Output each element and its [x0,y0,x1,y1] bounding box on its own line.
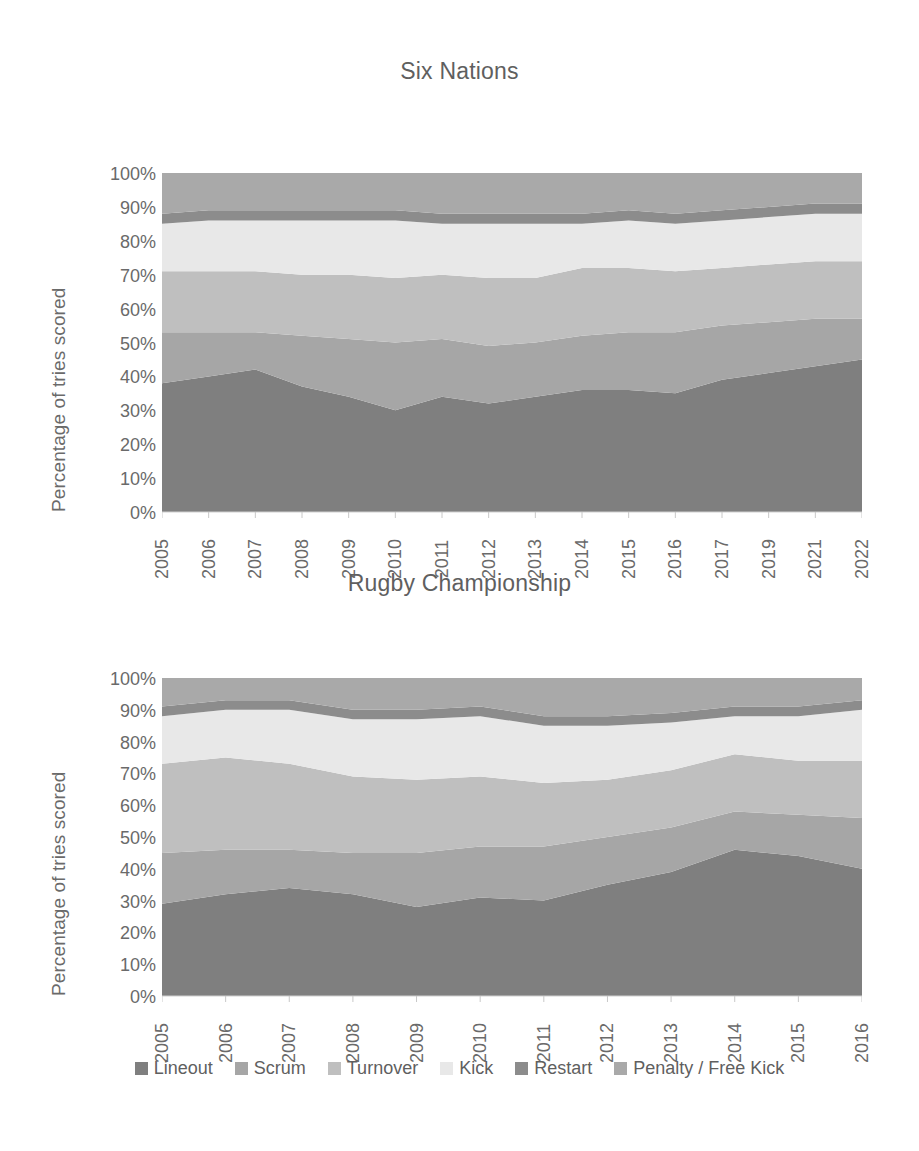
legend-item[interactable]: Turnover [328,1058,418,1079]
chart-six-nations: Six Nations Percentage of tries scored10… [0,40,919,560]
legend-swatch-icon [135,1062,148,1075]
legend-item-label: Restart [534,1058,592,1079]
y-axis-tick-label: 60% [120,301,156,319]
y-axis-tick-label: 30% [120,402,156,420]
legend-item-label: Scrum [254,1058,306,1079]
legend-swatch-icon [328,1062,341,1075]
y-axis-tick-label: 50% [120,335,156,353]
y-axis-tick-label: 30% [120,893,156,911]
y-axis-tick-label: 10% [120,470,156,488]
stacked-area-plot [162,678,862,1004]
y-axis-tick-label: 100% [110,165,156,183]
figure-root: Six Nations Percentage of tries scored10… [0,0,919,1151]
chart-legend: LineoutScrumTurnoverKickRestartPenalty /… [0,1058,919,1079]
legend-item-label: Lineout [154,1058,213,1079]
legend-item-label: Turnover [347,1058,418,1079]
y-axis-tick-label: 70% [120,267,156,285]
chart-two-plot-area: Percentage of tries scored100%90%80%70%6… [0,598,919,1076]
legend-swatch-icon [440,1062,453,1075]
legend-item[interactable]: Restart [515,1058,592,1079]
legend-swatch-icon [515,1062,528,1075]
legend-item-label: Kick [459,1058,493,1079]
y-axis-tick-label: 80% [120,734,156,752]
y-axis-tick-label: 90% [120,702,156,720]
legend-swatch-icon [235,1062,248,1075]
legend-item[interactable]: Penalty / Free Kick [614,1058,784,1079]
y-axis-ticks: 100%90%80%70%60%50%40%30%20%10%0% [94,598,156,1016]
y-axis-tick-label: 20% [120,436,156,454]
chart-two-title: Rugby Championship [0,568,919,598]
y-axis-title: Percentage of tries scored [48,288,70,512]
legend-item[interactable]: Kick [440,1058,493,1079]
y-axis-tick-label: 60% [120,797,156,815]
chart-rugby-championship: Rugby Championship Percentage of tries s… [0,560,919,1030]
y-axis-tick-label: 20% [120,924,156,942]
y-axis-tick-label: 90% [120,199,156,217]
chart-one-plot-area: Percentage of tries scored100%90%80%70%6… [0,86,919,592]
area-series-penalty-free-kick [162,173,862,214]
stacked-area-plot [162,173,862,520]
legend-item-label: Penalty / Free Kick [633,1058,784,1079]
y-axis-tick-label: 0% [130,504,156,522]
y-axis-tick-label: 100% [110,670,156,688]
legend-swatch-icon [614,1062,627,1075]
y-axis-title: Percentage of tries scored [48,772,70,996]
y-axis-tick-label: 50% [120,829,156,847]
chart-one-title: Six Nations [0,56,919,86]
y-axis-tick-label: 10% [120,956,156,974]
y-axis-tick-label: 40% [120,368,156,386]
y-axis-tick-label: 70% [120,765,156,783]
y-axis-tick-label: 80% [120,233,156,251]
y-axis-tick-label: 40% [120,861,156,879]
y-axis-tick-label: 0% [130,988,156,1006]
y-axis-ticks: 100%90%80%70%60%50%40%30%20%10%0% [94,86,156,532]
legend-item[interactable]: Lineout [135,1058,213,1079]
legend-item[interactable]: Scrum [235,1058,306,1079]
